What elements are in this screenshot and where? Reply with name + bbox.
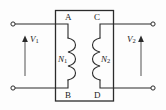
wire-secondary-top — [100, 24, 151, 38]
node-label-a: A — [65, 13, 72, 22]
voltage-arrow-primary — [22, 36, 28, 77]
terminal-bottom-right-icon — [151, 86, 155, 90]
node-label-b: B — [65, 91, 71, 100]
transformer-figure: A C B D N1 N2 V1 V2 — [0, 0, 166, 110]
voltage-label-secondary: V2 — [127, 35, 136, 45]
wire-primary-top — [15, 24, 68, 38]
coil-label-primary-subscript: 1 — [64, 57, 67, 64]
terminal-top-left-icon — [11, 22, 15, 26]
coil-label-secondary: N2 — [101, 55, 110, 65]
voltage-arrow-secondary — [138, 36, 144, 77]
voltage-label-secondary-subscript: 2 — [133, 37, 136, 44]
coil-primary-winding — [68, 38, 76, 80]
node-label-d: D — [94, 91, 101, 100]
terminal-top-right-icon — [151, 22, 155, 26]
coil-label-secondary-subscript: 2 — [107, 57, 110, 64]
wire-secondary-bottom — [100, 80, 151, 88]
voltage-label-primary-subscript: 1 — [36, 37, 39, 44]
coil-label-primary: N1 — [58, 55, 67, 65]
voltage-label-primary: V1 — [30, 35, 39, 45]
circuit-diagram-canvas — [0, 0, 166, 110]
wire-primary-bottom — [15, 80, 68, 88]
node-label-c: C — [94, 13, 100, 22]
coil-secondary-winding — [93, 38, 101, 80]
terminal-bottom-left-icon — [11, 86, 15, 90]
